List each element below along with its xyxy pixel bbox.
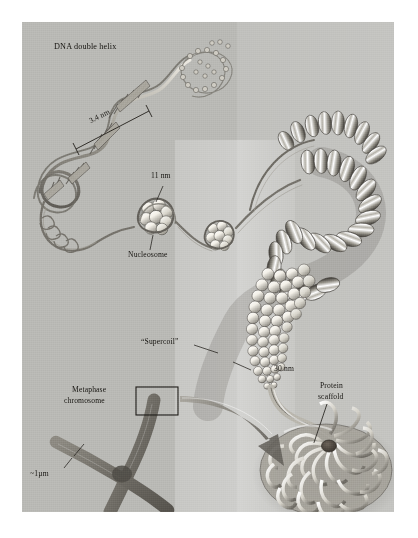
leader-nucleosome — [150, 235, 153, 250]
leader-1um-b — [64, 458, 72, 468]
figure-illustration: DNA double helix 3.4 nm 11 nm Nucleosome… — [0, 0, 418, 538]
metaphase-chromosome-structure — [56, 400, 168, 512]
label-nucleosome: Nucleosome — [128, 251, 167, 260]
leader-30nm — [233, 362, 251, 370]
label-scale-11nm: 11 nm — [151, 172, 171, 181]
label-scale-1um: ~1µm — [30, 470, 49, 479]
artwork-layer — [22, 22, 394, 512]
label-metaphase-line2: chromosome — [64, 397, 105, 406]
label-protein-scaffold-line2: scaffold — [318, 393, 344, 402]
nucleosome-particle-1 — [138, 199, 176, 235]
solenoid-30nm-fiber — [208, 111, 389, 438]
label-metaphase-line1: Metaphase — [72, 386, 106, 395]
label-scale-30nm: 30 nm — [274, 365, 294, 374]
label-supercoil: “Supercoil” — [141, 338, 179, 347]
label-dna-double-helix: DNA double helix — [54, 42, 116, 52]
nucleosome-particle-2 — [205, 221, 234, 251]
ball-and-stick-model — [179, 40, 232, 97]
illustration-panel: DNA double helix 3.4 nm 11 nm Nucleosome… — [22, 22, 394, 512]
label-protein-scaffold-line1: Protein — [320, 382, 343, 391]
protein-scaffold-node — [322, 440, 337, 452]
dna-double-helix-structure — [34, 40, 232, 253]
